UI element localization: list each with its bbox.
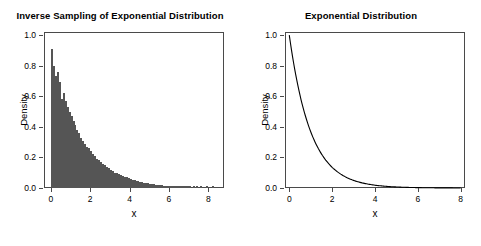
density-ytick-label: 0.6 <box>265 91 277 101</box>
density-xtick <box>332 188 333 192</box>
histogram-plot-area: x Density 0.00.20.40.60.81.002468 <box>44 32 224 188</box>
density-title: Exponential Distribution <box>241 10 481 21</box>
histogram-xtick-label: 4 <box>127 194 132 204</box>
panel-histogram: Inverse Sampling of Exponential Distribu… <box>0 0 240 246</box>
density-xtick <box>375 188 376 192</box>
histogram-xtick-label: 8 <box>206 194 211 204</box>
histogram-title: Inverse Sampling of Exponential Distribu… <box>0 10 240 21</box>
density-xtick-label: 6 <box>415 194 420 204</box>
density-ytick <box>280 188 284 189</box>
density-ytick <box>280 35 284 36</box>
density-curve <box>285 32 465 188</box>
histogram-ytick <box>39 35 43 36</box>
density-xtick-label: 8 <box>458 194 463 204</box>
histogram-xtick-label: 2 <box>88 194 93 204</box>
histogram-bar <box>212 186 214 188</box>
histogram-ytick-label: 1.0 <box>24 30 36 40</box>
density-ytick <box>280 66 284 67</box>
histogram-xtick <box>208 188 209 192</box>
histogram-ytick-label: 0.0 <box>24 183 36 193</box>
density-ytick-label: 0.2 <box>265 152 277 162</box>
histogram-xtick <box>169 188 170 192</box>
histogram-xlabel: x <box>44 208 224 219</box>
histogram-bar <box>189 186 191 188</box>
density-xtick-label: 0 <box>287 194 292 204</box>
histogram-ytick <box>39 96 43 97</box>
histogram-ytick <box>39 127 43 128</box>
density-ytick-label: 0.0 <box>265 183 277 193</box>
histogram-ytick-label: 0.8 <box>24 61 36 71</box>
density-ytick-label: 0.4 <box>265 122 277 132</box>
density-xtick <box>418 188 419 192</box>
density-xlabel: x <box>285 208 465 219</box>
density-ytick-label: 1.0 <box>265 30 277 40</box>
density-ytick-label: 0.8 <box>265 61 277 71</box>
histogram-ytick <box>39 66 43 67</box>
histogram-bars <box>44 32 224 188</box>
histogram-ytick <box>39 157 43 158</box>
histogram-xtick-label: 6 <box>167 194 172 204</box>
histogram-bar <box>196 186 198 188</box>
histogram-xtick-label: 0 <box>49 194 54 204</box>
histogram-bar <box>193 186 195 188</box>
histogram-xtick <box>130 188 131 192</box>
histogram-ytick <box>39 188 43 189</box>
density-ytick <box>280 157 284 158</box>
density-xtick <box>289 188 290 192</box>
density-ytick <box>280 127 284 128</box>
figure-root: Inverse Sampling of Exponential Distribu… <box>0 0 481 246</box>
panel-density-curve: Exponential Distribution x Density 0.00.… <box>241 0 481 246</box>
density-ytick <box>280 96 284 97</box>
density-xtick <box>461 188 462 192</box>
histogram-ytick-label: 0.4 <box>24 122 36 132</box>
density-xtick-label: 4 <box>373 194 378 204</box>
histogram-xtick <box>90 188 91 192</box>
histogram-ytick-label: 0.2 <box>24 152 36 162</box>
density-plot-area: x Density 0.00.20.40.60.81.002468 <box>285 32 465 188</box>
histogram-bar <box>200 186 202 188</box>
histogram-xtick <box>51 188 52 192</box>
density-xtick-label: 2 <box>330 194 335 204</box>
histogram-ytick-label: 0.6 <box>24 91 36 101</box>
